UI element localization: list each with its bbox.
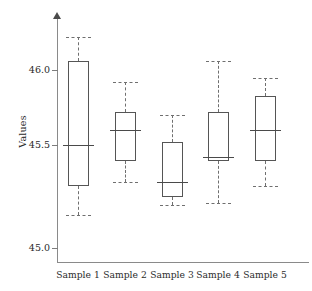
y-axis-tick-labels: 45.045.546.0 (0, 0, 50, 291)
box-plot-item (106, 0, 146, 265)
box-plot-item (199, 0, 239, 265)
box-iqr (162, 142, 183, 197)
box-plot-item (153, 0, 193, 265)
y-tick-46.0 (52, 70, 58, 71)
box-iqr (68, 61, 89, 186)
upper-whisker-cap (113, 82, 138, 83)
y-tick-45.0 (52, 248, 58, 249)
box-plot-item (59, 0, 99, 265)
median-line (110, 130, 141, 131)
upper-whisker (172, 115, 173, 142)
lower-whisker (78, 186, 79, 215)
upper-whisker (218, 61, 219, 112)
y-tick-45.5 (52, 145, 58, 146)
lower-whisker-cap (66, 215, 91, 216)
lower-whisker-cap (160, 205, 185, 206)
box-plot-item (246, 0, 286, 265)
median-line (157, 182, 188, 183)
y-axis-line (57, 17, 58, 263)
upper-whisker-cap (206, 61, 231, 62)
box-iqr (208, 112, 229, 161)
box-plot-chart: Values 45.045.546.0 Sample 1Sample 2Samp… (0, 0, 312, 291)
lower-whisker (172, 197, 173, 205)
lower-whisker (218, 161, 219, 202)
box-iqr (255, 96, 276, 162)
lower-whisker-cap (253, 186, 278, 187)
upper-whisker-cap (160, 115, 185, 116)
median-line (250, 130, 281, 131)
lower-whisker (265, 161, 266, 186)
lower-whisker-cap (113, 182, 138, 183)
box-iqr (115, 112, 136, 161)
upper-whisker (265, 78, 266, 96)
lower-whisker-cap (206, 203, 231, 204)
y-tick-label: 45.0 (2, 243, 50, 253)
median-line (203, 157, 234, 158)
upper-whisker-cap (66, 37, 91, 38)
upper-whisker-cap (253, 78, 278, 79)
upper-whisker (125, 82, 126, 112)
lower-whisker (125, 161, 126, 182)
y-tick-label: 45.5 (2, 140, 50, 150)
upper-whisker (78, 37, 79, 61)
y-tick-label: 46.0 (2, 65, 50, 75)
category-label-5: Sample 5 (235, 269, 295, 280)
median-line (63, 145, 94, 146)
